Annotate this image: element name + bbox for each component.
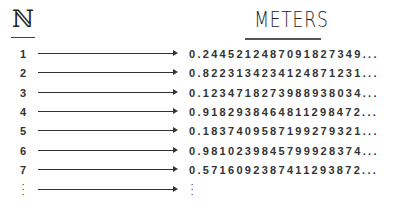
vertical-ellipsis-right: ··· <box>189 182 195 200</box>
real-value: 0.9810239845799928374... <box>189 142 379 160</box>
mapping-row: 4 0.9182938464811298472... <box>0 103 399 121</box>
mapping-row: 1 0.2445212487091827349... <box>0 45 399 63</box>
natural-number: 4 <box>18 103 28 121</box>
arrow-right-icon <box>38 150 174 151</box>
naturals-header-underline <box>11 37 35 38</box>
real-value: 0.9182938464811298472... <box>189 103 378 121</box>
arrow-right-icon <box>38 130 174 131</box>
arrow-right-icon <box>38 92 174 93</box>
real-value: 0.1837409587199279321... <box>189 122 379 140</box>
real-value: 0.1234718273988938034... <box>189 84 379 102</box>
real-value: 0.2445212487091827349... <box>189 45 379 63</box>
mapping-row: 7 0.5716092387411293872... <box>0 161 399 179</box>
natural-number: 6 <box>18 142 28 160</box>
real-value: 0.8223134234124871231... <box>189 64 379 82</box>
naturals-header: ℕ <box>12 5 34 33</box>
natural-number: 1 <box>18 45 28 63</box>
arrow-right-icon <box>38 111 174 112</box>
mapping-row: 5 0.1837409587199279321... <box>0 122 399 140</box>
natural-number: 3 <box>18 84 28 102</box>
arrow-right-icon <box>38 169 174 170</box>
mapping-row: 3 0.1234718273988938034... <box>0 84 399 102</box>
arrow-right-icon <box>38 72 174 73</box>
meters-header-underline <box>245 38 321 40</box>
arrow-right-icon <box>38 189 174 190</box>
real-value: 0.5716092387411293872... <box>189 161 378 179</box>
mapping-row: 2 0.8223134234124871231... <box>0 64 399 82</box>
natural-number: 5 <box>18 122 28 140</box>
natural-number: 7 <box>18 161 28 179</box>
vertical-ellipsis-left: ··· <box>20 182 26 200</box>
mapping-row: 6 0.9810239845799928374... <box>0 142 399 160</box>
natural-number: 2 <box>18 64 28 82</box>
arrow-right-icon <box>38 53 174 54</box>
meters-header: METERS <box>254 7 312 33</box>
naturals-to-reals-mapping-diagram: ℕ METERS 1 0.2445212487091827349... 2 0.… <box>0 0 399 210</box>
continuation-row: ··· ··· <box>0 181 399 199</box>
